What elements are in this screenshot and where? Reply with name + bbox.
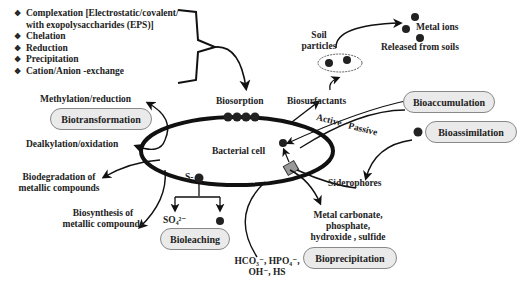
mechanisms-list: ❖Complexation [Electrostatic/covalent/wi…	[14, 8, 179, 77]
anions-label: HCO₃⁻, HPO₄⁻,OH⁻, HS	[232, 256, 302, 278]
bullet-icon: ❖	[14, 31, 21, 43]
dealkylation-label: Dealkylation/oxidation	[26, 139, 118, 150]
siderophores-label: Siderophores	[328, 178, 382, 189]
sulfate-label: SO₄²⁻	[163, 215, 186, 226]
metal-ions-label: Metal ions	[416, 22, 458, 33]
bioleaching-box: Bioleaching	[160, 228, 230, 250]
list-bracket	[178, 10, 215, 83]
list-item: ❖Chelation	[14, 31, 179, 43]
bullet-icon: ❖	[14, 8, 21, 20]
list-item: ❖Precipitation	[14, 54, 179, 66]
bullet-icon: ❖	[14, 54, 21, 66]
list-item: ❖Reduction	[14, 43, 179, 55]
bioassimilation-box: Bioassimilation	[425, 121, 517, 143]
soil-particles-label: Soilparticles	[300, 30, 338, 52]
biosurfactants-label: Biosurfactants	[287, 96, 346, 107]
precipitates-label: Metal carbonate,phosphate,hydroxide , su…	[298, 210, 398, 243]
bioaccumulation-box: Bioaccumulation	[403, 91, 495, 113]
released-label: Released from soils	[381, 42, 459, 53]
sulfide-label: S-	[185, 172, 193, 183]
bullet-icon: ❖	[14, 66, 21, 78]
biodegradation-label: Biodegradation ofmetallic compounds	[14, 172, 104, 194]
bioprecipitation-box: Bioprecipitation	[303, 247, 397, 269]
soil-particle-cloud	[318, 54, 362, 72]
biosorption-label: Biosorption	[216, 96, 264, 107]
biosynthesis-label: Biosynthesis ofmetallic compounds	[58, 208, 148, 230]
bracket-arrow	[215, 47, 246, 88]
list-item: ❖Complexation [Electrostatic/covalent/wi…	[14, 8, 179, 31]
bacterial-cell-label: Bacterial cell	[212, 146, 265, 157]
list-item: ❖Cation/Anion -exchange	[14, 66, 179, 78]
methylation-label: Methylation/reduction	[40, 94, 131, 105]
bullet-icon: ❖	[14, 43, 21, 55]
biotransformation-box: Biotransformation	[50, 108, 152, 130]
